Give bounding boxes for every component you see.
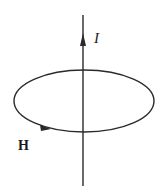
current-label: I bbox=[93, 30, 100, 46]
ampere-law-diagram: I H bbox=[0, 0, 164, 186]
field-loop bbox=[14, 70, 154, 132]
current-arrow-icon bbox=[80, 33, 86, 46]
field-label: H bbox=[18, 138, 29, 153]
